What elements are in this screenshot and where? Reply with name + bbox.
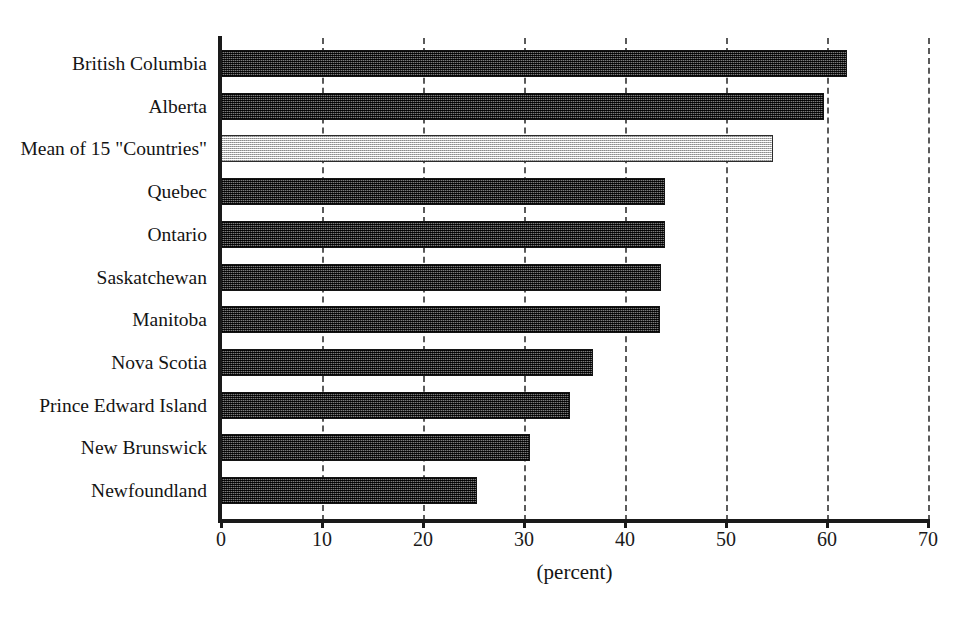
bar (221, 264, 661, 291)
category-label: Ontario (0, 221, 207, 248)
x-tick-label: 60 (797, 528, 857, 550)
x-tick-label: 40 (595, 528, 655, 550)
x-tick-label: 50 (696, 528, 756, 550)
x-tick-10 (321, 519, 324, 528)
bar (221, 50, 847, 77)
x-tick-60 (826, 519, 829, 528)
category-label: Nova Scotia (0, 349, 207, 376)
bar (221, 306, 660, 333)
x-tick-label: 30 (494, 528, 554, 550)
category-label: British Columbia (0, 50, 207, 77)
category-label: Mean of 15 "Countries" (0, 135, 207, 162)
x-axis-line (219, 519, 930, 523)
category-label: Prince Edward Island (0, 392, 207, 419)
x-tick-label: 0 (191, 528, 251, 550)
category-label: Manitoba (0, 306, 207, 333)
bar (221, 221, 665, 248)
x-tick-label: 20 (393, 528, 453, 550)
bar (221, 392, 570, 419)
x-tick-20 (422, 519, 425, 528)
category-label: Newfoundland (0, 477, 207, 504)
category-label: Alberta (0, 93, 207, 120)
y-axis-line (218, 36, 222, 523)
x-tick-50 (725, 519, 728, 528)
gridline-70 (928, 38, 930, 521)
category-label: Quebec (0, 178, 207, 205)
x-tick-label: 10 (292, 528, 352, 550)
x-tick-30 (523, 519, 526, 528)
gridline-60 (827, 38, 829, 521)
bar (221, 477, 477, 504)
x-tick-40 (624, 519, 627, 528)
plot-area (221, 38, 928, 521)
bar (221, 93, 824, 120)
bar (221, 349, 593, 376)
bar (221, 135, 773, 162)
bar-chart: 010203040506070 British ColumbiaAlbertaM… (0, 0, 953, 617)
category-label: New Brunswick (0, 434, 207, 461)
bar (221, 178, 665, 205)
bar (221, 434, 530, 461)
x-axis-title: (percent) (221, 560, 928, 585)
x-tick-0 (220, 519, 223, 528)
x-tick-70 (927, 519, 930, 528)
x-tick-label: 70 (898, 528, 953, 550)
category-label: Saskatchewan (0, 264, 207, 291)
